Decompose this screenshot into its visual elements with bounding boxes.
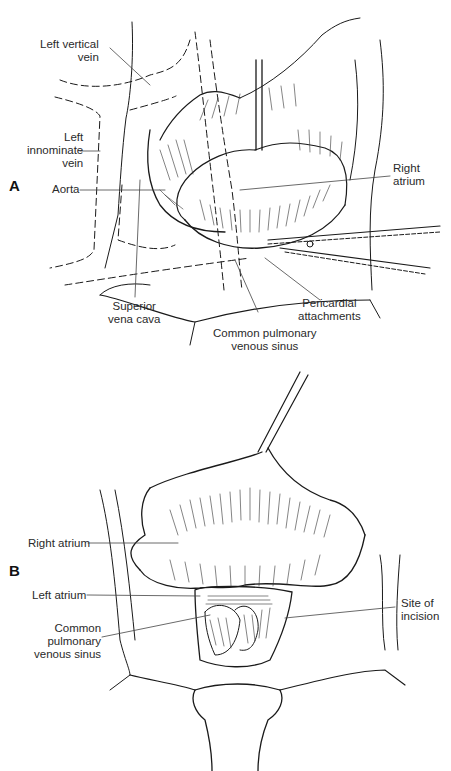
label-aorta: Aorta bbox=[52, 183, 80, 196]
label-superior-vena-cava: Superior vena cava bbox=[108, 300, 160, 326]
panel-a-drawing bbox=[50, 18, 440, 345]
label-pericardial-attachments: Pericardial attachments bbox=[298, 297, 361, 323]
panel-label-b: B bbox=[9, 562, 20, 579]
label-left-vertical-vein: Left vertical vein bbox=[40, 38, 99, 64]
panel-b-drawing bbox=[87, 372, 405, 771]
label-left-innominate-vein: Left innominate vein bbox=[27, 131, 83, 170]
label-right-atrium-b: Right atrium bbox=[28, 537, 90, 550]
label-site-of-incision: Site of incision bbox=[401, 597, 439, 623]
label-left-atrium: Left atrium bbox=[32, 589, 86, 602]
label-right-atrium-a: Right atrium bbox=[393, 162, 425, 188]
panel-label-a: A bbox=[9, 177, 20, 194]
label-common-pulmonary-venous-sinus-a: Common pulmonary venous sinus bbox=[213, 327, 317, 353]
label-common-pulmonary-venous-sinus-b: Common pulmonary venous sinus bbox=[34, 622, 101, 661]
